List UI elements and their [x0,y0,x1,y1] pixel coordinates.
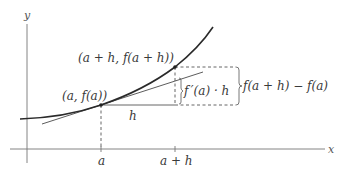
tangent-rise-label: f ′(a) · h [183,84,229,98]
x-axis-label: x [328,143,335,156]
point-a-plus-h [173,65,177,69]
tangent-rise-brace [179,78,183,104]
point-a-label: (a, f(a)) [62,89,107,103]
derivative-diagram: y x (a + h, f(a + h)) (a, f(a)) h f ′(a)… [0,0,346,174]
tick-label-a: a [98,154,105,168]
h-label: h [129,109,137,123]
actual-rise-brace [236,67,242,105]
tick-label-a-plus-h: a + h [160,154,193,168]
point-a-plus-h-label: (a + h, f(a + h)) [78,51,174,65]
point-a [99,103,103,107]
actual-rise-label: f(a + h) − f(a) [242,79,328,93]
y-axis-label: y [23,9,31,22]
